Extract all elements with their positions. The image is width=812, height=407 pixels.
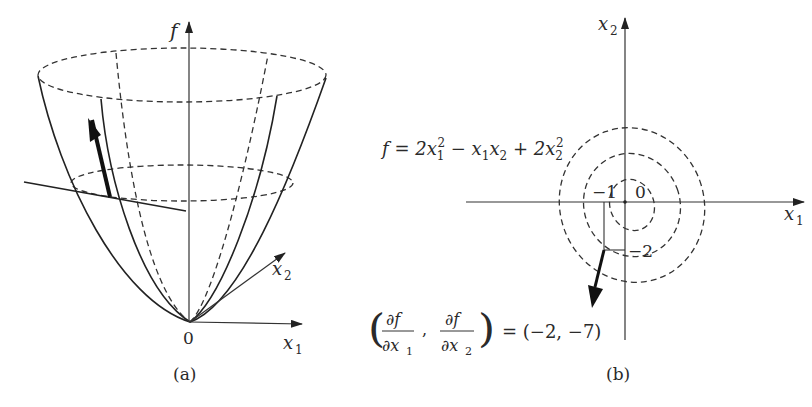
svg-text:2: 2	[465, 345, 472, 358]
tick-0: 0	[635, 182, 646, 202]
tangent-line	[24, 182, 186, 211]
figure-canvas: f 0 x 1 x 2 (a) x 2	[0, 0, 812, 407]
caption-b: (b)	[606, 364, 630, 384]
contour-outer	[538, 107, 727, 303]
svg-text:1: 1	[295, 343, 303, 357]
panel-b: x 2 x 1 f = 2x12 − x1x2 + 2x22 −1 0 −2 (…	[368, 13, 804, 384]
svg-text:∂f: ∂f	[386, 310, 403, 329]
x2-label-a: x 2	[272, 258, 292, 283]
gradient-arrow-2d	[595, 250, 604, 287]
function-formula: f = 2x12 − x1x2 + 2x22	[380, 136, 564, 163]
x2-axis	[190, 253, 285, 322]
x1-axis	[190, 322, 302, 324]
svg-text:1: 1	[406, 345, 413, 358]
gradient-formula: ( ∂f ∂x 1 , ∂f ∂x 2 ) = (−2, −7)	[368, 305, 601, 358]
svg-text:1: 1	[796, 214, 804, 228]
f-axis-label: f	[168, 19, 181, 43]
gradient-arrowhead-2d	[588, 285, 603, 308]
svg-text:∂x: ∂x	[441, 336, 458, 355]
origin-dot-b	[623, 200, 627, 204]
tick-minus1: −1	[592, 182, 617, 202]
x2-label-b: x 2	[598, 13, 618, 38]
svg-text:= (−2, −7): = (−2, −7)	[502, 321, 601, 342]
top-level-ellipse	[38, 48, 326, 102]
svg-text:x: x	[598, 13, 608, 34]
caption-a: (a)	[173, 364, 196, 384]
tick-minus2: −2	[628, 241, 653, 261]
svg-text:2: 2	[610, 24, 618, 38]
origin-label-a: 0	[183, 328, 194, 348]
panel-a: f 0 x 1 x 2 (a)	[24, 19, 326, 384]
svg-text:∂f: ∂f	[445, 310, 462, 329]
svg-text:∂x: ∂x	[382, 336, 399, 355]
svg-text:): )	[478, 305, 495, 351]
x1-label-a: x 1	[283, 332, 303, 357]
svg-text:x: x	[272, 258, 282, 279]
gradient-arrowhead-3d	[88, 118, 101, 142]
paraboloid-outer-left	[38, 76, 190, 322]
x1-label-b: x 1	[784, 203, 804, 228]
svg-text:2: 2	[284, 269, 292, 283]
svg-text:x: x	[784, 203, 794, 224]
svg-text:x: x	[283, 332, 293, 353]
inner-curve-left	[101, 99, 190, 322]
svg-text:,: ,	[422, 320, 427, 339]
